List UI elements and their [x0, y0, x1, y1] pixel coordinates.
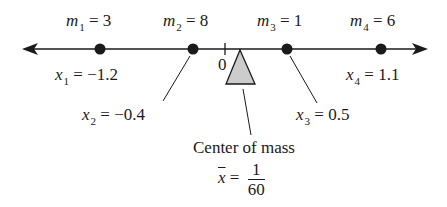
leader-line-center-of-mass	[243, 89, 251, 135]
position-label-1: x1 = −1.2	[55, 66, 118, 83]
leader-line-x3	[290, 56, 317, 103]
mass-point-2	[188, 44, 199, 55]
center-of-mass-value: x = 1 60	[218, 161, 265, 198]
leader-line-x2	[163, 56, 190, 101]
mass-point-1	[95, 44, 106, 55]
fraction: 1 60	[248, 161, 265, 198]
position-label-2: x2 = −0.4	[82, 106, 145, 123]
position-label-3: x3 = 0.5	[296, 106, 349, 123]
mass-point-3	[282, 44, 293, 55]
mass-point-4	[376, 44, 387, 55]
origin-label: 0	[218, 56, 227, 73]
mass-label-4: m4 = 6	[350, 12, 395, 29]
mass-label-3: m3 = 1	[257, 12, 302, 29]
mass-label-2: m2 = 8	[163, 12, 208, 29]
fulcrum-triangle-icon	[226, 50, 255, 84]
position-label-4: x4 = 1.1	[346, 66, 399, 83]
center-of-mass-label: Center of mass	[193, 139, 295, 156]
mass-label-1: m1 = 3	[66, 12, 111, 29]
